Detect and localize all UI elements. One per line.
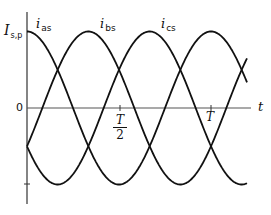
half-period-numerator: T	[113, 114, 127, 128]
curve-label-ias-sub: as	[41, 23, 51, 33]
zero-label: 0	[16, 102, 23, 113]
half-period-label: T 2	[113, 114, 127, 141]
curve-label-ics-sub: cs	[166, 23, 176, 33]
y-axis-label-sub: s,p	[11, 31, 23, 40]
y-axis-label: Is,p	[4, 23, 22, 37]
half-period-denominator: 2	[113, 128, 127, 141]
y-axis-label-main: I	[4, 22, 10, 38]
curve-label-ibs: ibs	[100, 17, 116, 30]
curve-label-ics: ics	[161, 17, 176, 30]
curve-label-ias-main: i	[36, 16, 40, 31]
curve-label-ias: ias	[36, 17, 51, 30]
curve-label-ibs-sub: bs	[105, 23, 115, 33]
curve-label-ics-main: i	[161, 16, 165, 31]
x-axis-label: t	[258, 100, 263, 113]
period-label: T	[206, 111, 214, 123]
curve-label-ibs-main: i	[100, 16, 104, 31]
